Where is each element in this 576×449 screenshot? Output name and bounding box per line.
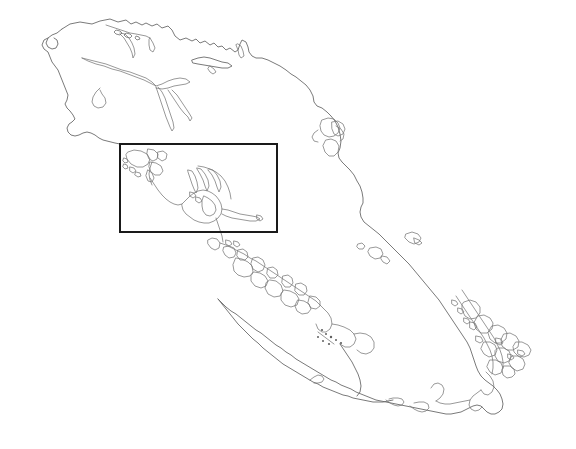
- sc-rock-7: [322, 340, 324, 342]
- map-figure: [0, 0, 576, 449]
- sc-rock-3: [330, 336, 332, 338]
- map-background: [0, 0, 576, 449]
- sc-rock-6: [317, 336, 319, 338]
- sc-rock-2: [325, 333, 327, 335]
- sc-rock-8: [328, 343, 330, 345]
- map-canvas: [0, 0, 576, 449]
- sc-rock-1: [321, 329, 323, 331]
- sc-rock-4: [335, 339, 337, 341]
- sc-rock-5: [340, 342, 342, 344]
